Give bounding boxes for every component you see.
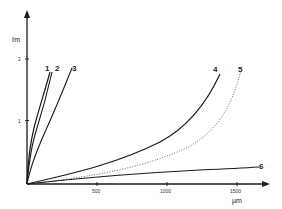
y-axis-label: ℓm bbox=[11, 36, 20, 43]
x-tick-label-500: 500 bbox=[92, 188, 101, 194]
curve-label-3: 3 bbox=[72, 64, 77, 73]
curves bbox=[27, 68, 259, 184]
x-tick-label-1000: 1000 bbox=[160, 188, 171, 194]
line-chart: ℓm 2 1 500 1000 1500 µm 1 2 3 4 5 6 bbox=[0, 0, 282, 209]
curve-label-4: 4 bbox=[213, 65, 218, 74]
x-axis-arrow-icon bbox=[262, 181, 270, 187]
curve-label-2: 2 bbox=[55, 64, 60, 73]
x-tick-label-1500: 1500 bbox=[230, 188, 241, 194]
curve-label-1: 1 bbox=[45, 64, 50, 73]
curve-5 bbox=[27, 70, 241, 184]
curve-label-6: 6 bbox=[259, 162, 264, 171]
curve-3 bbox=[27, 68, 72, 184]
y-axis-arrow-icon bbox=[24, 10, 30, 18]
y-tick-label-1: 1 bbox=[18, 118, 21, 124]
y-axis: ℓm 2 1 bbox=[11, 10, 30, 184]
curve-2 bbox=[27, 72, 52, 184]
curve-4 bbox=[27, 74, 220, 184]
curve-labels: 1 2 3 4 5 6 bbox=[45, 64, 264, 171]
x-axis: 500 1000 1500 µm bbox=[27, 181, 270, 205]
y-tick-label-2: 2 bbox=[18, 56, 21, 62]
curve-label-5: 5 bbox=[238, 65, 243, 74]
x-axis-label: µm bbox=[232, 197, 242, 205]
